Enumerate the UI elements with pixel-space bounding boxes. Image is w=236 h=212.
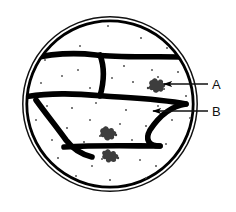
callout-label-a: A: [212, 78, 221, 91]
petri-dish-figure: A B: [0, 0, 236, 212]
wall-lower-horizontal: [64, 146, 160, 147]
callout-label-b: B: [212, 105, 221, 118]
diagram-canvas: [0, 0, 236, 212]
